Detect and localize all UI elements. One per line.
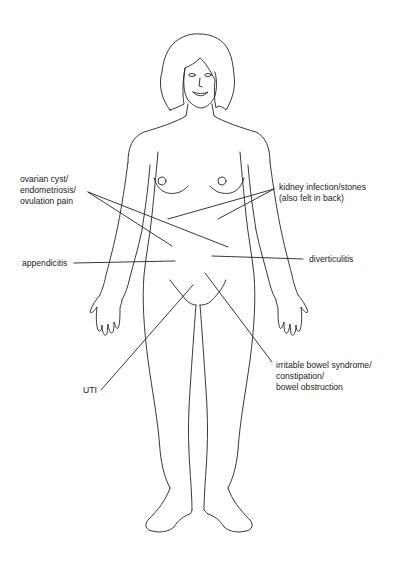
- inner-leg-right: [200, 305, 208, 510]
- torso-left: [143, 152, 170, 488]
- label-irritable-bowel: irritable bowel syndrome/ constipation/ …: [276, 360, 372, 393]
- callout-line-ovarian-2: [88, 192, 228, 247]
- label-uti: UTI: [83, 385, 97, 396]
- callout-line-appendicitis: [74, 261, 175, 263]
- callout-line-ibs: [205, 273, 272, 362]
- body-figure-diagram: [0, 0, 396, 565]
- inner-leg-left: [189, 305, 197, 510]
- torso-right: [228, 152, 255, 488]
- right-arm-inner: [248, 165, 276, 300]
- left-breast: [154, 178, 188, 193]
- left-eye: [189, 74, 195, 77]
- neck-right: [212, 104, 270, 162]
- callout-line-uti: [101, 285, 193, 390]
- hair-outline: [160, 34, 234, 110]
- callout-line-diverticulitis: [212, 256, 303, 259]
- groin-left: [170, 280, 196, 305]
- label-diverticulitis: diverticulitis: [309, 254, 353, 265]
- callout-line-kidney-1: [168, 189, 274, 219]
- mouth: [193, 92, 208, 96]
- right-hand: [276, 295, 308, 335]
- callout-line-ovarian-1: [88, 192, 172, 246]
- left-arm-inner: [122, 165, 150, 300]
- right-breast: [210, 178, 244, 193]
- right-eye: [205, 74, 211, 77]
- label-kidney-infection: kidney infection/stones (also felt in ba…: [279, 182, 366, 204]
- right-foot: [204, 488, 252, 532]
- left-foot: [146, 488, 192, 532]
- left-hand: [90, 295, 122, 335]
- right-nipple: [218, 177, 226, 185]
- left-arm-outer: [100, 162, 128, 295]
- label-appendicitis: appendicitis: [22, 258, 67, 269]
- label-ovarian-cyst: ovarian cyst/ endometriosis/ ovulation p…: [20, 174, 76, 207]
- left-nipple: [158, 177, 166, 185]
- nose: [199, 78, 202, 87]
